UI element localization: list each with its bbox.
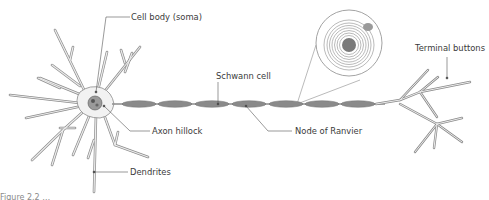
leader-lines — [93, 17, 448, 173]
label-schwann-cell: Schwann cell — [216, 72, 271, 80]
neuron-diagram — [0, 0, 489, 200]
label-terminal-buttons: Terminal buttons — [415, 44, 485, 52]
nucleus — [88, 96, 102, 110]
label-dendrites: Dendrites — [130, 168, 171, 176]
label-cell-body: Cell body (soma) — [131, 13, 202, 21]
myelin-sheaths — [122, 101, 375, 108]
figure-caption: Figure 2.2 … — [0, 193, 50, 200]
label-axon-hillock: Axon hillock — [152, 127, 202, 135]
label-node-of-ranvier: Node of Ranvier — [295, 127, 362, 135]
axon-terminals — [376, 70, 470, 152]
dendrites — [10, 30, 148, 192]
cross-section — [297, 10, 382, 104]
